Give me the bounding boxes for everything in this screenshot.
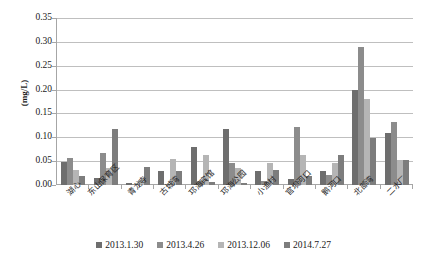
x-axis-label-cell: 东山保育区 (89, 189, 121, 237)
bar-group (186, 18, 218, 185)
y-axis-tick-label: 0.15 (8, 108, 52, 118)
x-axis-label-cell: 二水厂 (381, 189, 413, 237)
x-axis-label-cell: 邛海公园 (219, 189, 251, 237)
legend-swatch-icon (284, 242, 290, 248)
x-axis-label-cell: 湖心 (57, 189, 89, 237)
y-axis-tickmark (52, 185, 56, 186)
x-axis-label-cell: 古城湾 (154, 189, 186, 237)
y-axis-tick-label: 0.10 (8, 132, 52, 142)
bar-group (251, 18, 283, 185)
x-axis-label-cell: 鹅河口 (316, 189, 348, 237)
x-axis-label-cell: 北部湾 (348, 189, 380, 237)
bar-group (154, 18, 186, 185)
legend-swatch-icon (96, 242, 102, 248)
y-axis-tick-label: 0.20 (8, 85, 52, 95)
bar-group (122, 18, 154, 185)
bar-group (348, 18, 380, 185)
legend-label: 2014.7.27 (293, 240, 331, 250)
x-axis-label-cell: 邛海宾馆 (186, 189, 218, 237)
y-axis-tick-label: 0.05 (8, 156, 52, 166)
y-axis-tick-label: 0.00 (8, 180, 52, 190)
y-axis-tick-labels: 0.350.300.250.200.150.100.050.00 (0, 18, 52, 185)
bar-group (219, 18, 251, 185)
legend-label: 2013.4.26 (166, 240, 204, 250)
y-axis-tick-label: 0.30 (8, 37, 52, 47)
y-axis-tick-label: 0.35 (8, 13, 52, 23)
legend-item[interactable]: 2013.12.06 (218, 240, 270, 250)
bar-group (89, 18, 121, 185)
bar-group (57, 18, 89, 185)
x-axis-label-cell: 青龙寺 (122, 189, 154, 237)
bar-group (381, 18, 413, 185)
bar-chart: (mg/L) 0.350.300.250.200.150.100.050.00 … (0, 0, 427, 262)
bar-group (284, 18, 316, 185)
y-axis-tick-label: 0.25 (8, 61, 52, 71)
legend-label: 2013.1.30 (105, 240, 143, 250)
legend-item[interactable]: 2013.1.30 (96, 240, 143, 250)
chart-legend: 2013.1.302013.4.262013.12.062014.7.27 (0, 240, 427, 250)
bar[interactable] (191, 147, 197, 185)
legend-item[interactable]: 2013.4.26 (157, 240, 204, 250)
legend-swatch-icon (218, 242, 224, 248)
x-axis-label-cell: 小渔村 (251, 189, 283, 237)
legend-label: 2013.12.06 (227, 240, 270, 250)
bars-layer (57, 18, 413, 185)
bar-group (316, 18, 348, 185)
x-axis-label-cell: 官坝河口 (284, 189, 316, 237)
legend-item[interactable]: 2014.7.27 (284, 240, 331, 250)
legend-swatch-icon (157, 242, 163, 248)
x-axis-category-labels: 湖心东山保育区青龙寺古城湾邛海宾馆邛海公园小渔村官坝河口鹅河口北部湾二水厂 (57, 189, 413, 237)
